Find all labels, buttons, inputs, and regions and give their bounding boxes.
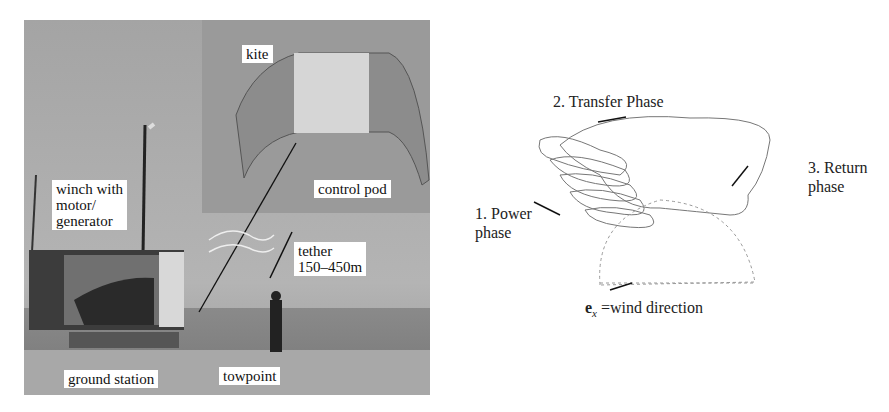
phase3-label: 3. Return phase (808, 158, 868, 196)
wind-direction-label: ex =wind direction (585, 298, 703, 323)
phase2-label: 2. Transfer Phase (553, 92, 664, 111)
phase1-label: 1. Power phase (475, 204, 532, 242)
label-tether: tether 150–450m (294, 242, 366, 276)
label-control-pod: control pod (314, 180, 391, 198)
label-kite: kite (242, 45, 273, 63)
label-ground-station: ground station (64, 370, 158, 388)
ground-station-photo: kite control pod winch with motor/ gener… (24, 20, 430, 395)
label-winch: winch with motor/ generator (52, 180, 127, 230)
label-towpoint: towpoint (219, 367, 280, 385)
